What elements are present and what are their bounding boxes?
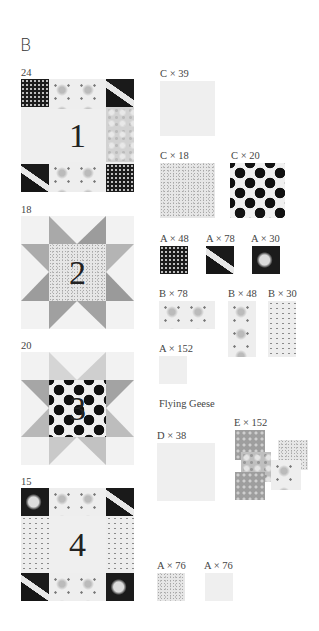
swatch-label: C × 20	[231, 150, 260, 161]
fabric-swatch	[157, 443, 215, 501]
swatch-label: A × 76	[204, 560, 233, 571]
block-3-count: 20	[21, 340, 32, 351]
fabric-swatch	[228, 301, 256, 357]
swatch-label: A × 76	[157, 560, 186, 571]
swatch-label: C × 18	[160, 150, 189, 161]
block-1-count: 24	[21, 67, 32, 78]
fabric-swatch	[157, 573, 185, 601]
fabric-swatch	[252, 246, 280, 274]
block-1: 1	[21, 79, 134, 192]
fabric-swatch	[206, 246, 234, 274]
fabric-swatch	[159, 356, 187, 384]
swatch-label: B × 48	[228, 288, 257, 299]
fabric-swatch-stack	[233, 430, 313, 502]
fabric-swatch	[205, 573, 233, 601]
block-1-number: 1	[21, 79, 134, 192]
block-2-count: 18	[21, 204, 32, 215]
swatch-label: B × 78	[159, 288, 188, 299]
swatch-label: A × 78	[206, 233, 235, 244]
block-4: 4	[21, 488, 134, 601]
swatch-label: D × 38	[157, 430, 186, 441]
flying-geese-heading: Flying Geese	[159, 398, 215, 409]
fabric-swatch	[160, 246, 188, 274]
fabric-swatch	[159, 301, 215, 329]
fabric-swatch	[268, 301, 296, 357]
block-4-count: 15	[21, 476, 32, 487]
block-2-number: 2	[21, 216, 134, 329]
fabric-swatch	[160, 81, 215, 136]
swatch-label: C × 39	[160, 68, 189, 79]
swatch-label: A × 30	[251, 233, 280, 244]
fabric-swatch	[230, 163, 285, 218]
swatch-label: E × 152	[234, 417, 267, 428]
swatch-label: A × 152	[159, 343, 193, 354]
swatch-label: A × 48	[160, 233, 189, 244]
fabric-swatch	[160, 163, 215, 218]
block-4-number: 4	[21, 488, 134, 601]
swatch-label: B × 30	[268, 288, 297, 299]
section-letter: B	[20, 35, 31, 55]
block-3-number: 3	[21, 352, 134, 465]
block-3: 3	[21, 352, 134, 465]
block-2: 2	[21, 216, 134, 329]
